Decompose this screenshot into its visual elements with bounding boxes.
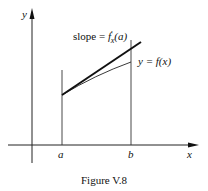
tick-label-b: b <box>128 148 134 160</box>
function-curve <box>62 62 131 95</box>
x-axis-label: x <box>186 148 192 160</box>
y-axis-label: y <box>21 8 27 20</box>
tick-label-a: a <box>58 148 64 160</box>
figure-diagram: y x a b slope = f′x(a) y = f(x) Figure V… <box>0 0 208 191</box>
slope-annotation: slope = f′x(a) <box>73 30 127 45</box>
tangent-line <box>62 42 141 95</box>
curve-label: y = f(x) <box>137 55 171 68</box>
x-axis-arrow-icon <box>188 143 199 148</box>
figure-caption: Figure V.8 <box>81 174 128 186</box>
y-axis-arrow-icon <box>30 8 35 19</box>
